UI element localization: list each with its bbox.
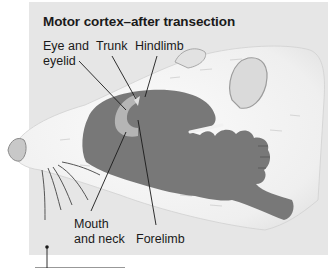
figure-title: Motor cortex–after transection (43, 14, 235, 29)
label-trunk: Trunk (96, 39, 128, 54)
label-eye-line1: Eye and (43, 39, 89, 54)
nose (8, 138, 26, 161)
label-mouth-line1: Mouth (74, 217, 125, 232)
label-mouth-and-neck: Mouth and neck (74, 217, 125, 247)
label-eye-line2: eyelid (43, 54, 89, 69)
label-hindlimb: Hindlimb (135, 39, 184, 54)
label-forelimb: Forelimb (136, 232, 185, 247)
label-eye-and-eyelid: Eye and eyelid (43, 39, 89, 69)
label-mouth-line2: and neck (74, 232, 125, 247)
